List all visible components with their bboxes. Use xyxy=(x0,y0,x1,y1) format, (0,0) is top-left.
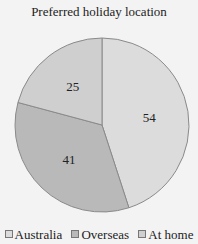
pie-chart: 544125 xyxy=(0,0,198,244)
legend-item-australia: Australia xyxy=(5,227,63,243)
legend-label-australia: Australia xyxy=(15,227,63,242)
slice-label-overseas: 41 xyxy=(63,152,76,167)
legend-item-at-home: At home xyxy=(138,227,193,243)
legend-item-overseas: Overseas xyxy=(71,227,129,243)
legend-swatch-at-home xyxy=(138,230,146,238)
slice-label-australia: 54 xyxy=(143,110,157,125)
slice-label-at-home: 25 xyxy=(66,79,79,94)
legend-label-overseas: Overseas xyxy=(81,227,129,242)
legend-swatch-australia xyxy=(5,230,13,238)
legend-swatch-overseas xyxy=(71,230,79,238)
legend: Australia Overseas At home xyxy=(0,227,198,243)
legend-label-at-home: At home xyxy=(148,227,193,242)
